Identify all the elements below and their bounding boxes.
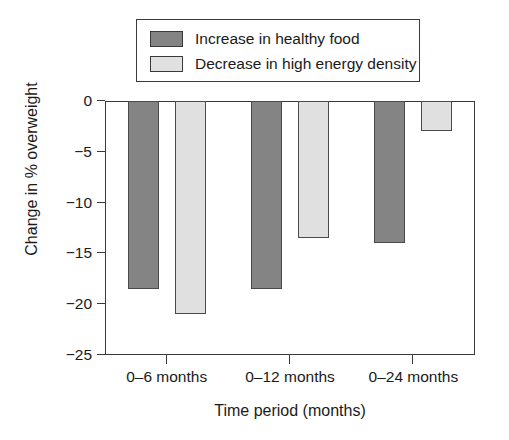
- bar-decrease-high-energy-density-0: [175, 101, 206, 314]
- y-axis-tick-label: 0: [46, 93, 92, 109]
- y-axis-title: Change in % overweight: [23, 54, 41, 284]
- y-axis-tick-label: −20: [46, 296, 92, 312]
- y-axis-tick-mark: [97, 100, 105, 101]
- y-axis-tick-label: −5: [46, 144, 92, 160]
- y-axis-tick-label: −15: [46, 245, 92, 261]
- x-axis-title: Time period (months): [105, 402, 475, 420]
- bar-increase-healthy-food-0: [128, 101, 159, 289]
- bar-decrease-high-energy-density-1: [298, 101, 329, 238]
- y-axis-tick-mark: [97, 202, 105, 203]
- y-axis-tick-label: −10: [46, 195, 92, 211]
- legend-swatch-light-icon: [150, 56, 183, 72]
- legend-swatch-dark-icon: [150, 31, 183, 47]
- y-axis-tick-mark: [97, 303, 105, 304]
- bar-increase-healthy-food-2: [374, 101, 405, 243]
- legend-label-decrease-high-energy-density: Decrease in high energy density: [195, 55, 416, 72]
- bar-increase-healthy-food-1: [251, 101, 282, 289]
- y-axis-tick-mark: [97, 151, 105, 152]
- y-axis-tick-mark: [97, 252, 105, 253]
- y-axis-tick-mark: [97, 354, 105, 355]
- x-axis-tick-mark: [289, 355, 290, 364]
- legend-item-decrease-high-energy-density: Decrease in high energy density: [150, 51, 419, 76]
- x-axis-tick-label: 0–6 months: [97, 368, 237, 385]
- x-axis-tick-label: 0–24 months: [343, 368, 483, 385]
- legend-item-increase-healthy-food: Increase in healthy food: [150, 26, 419, 51]
- plot-area: [105, 101, 475, 355]
- y-axis-tick-label: −25: [46, 347, 92, 363]
- bar-chart-figure: Increase in healthy food Decrease in hig…: [0, 0, 509, 440]
- x-axis-tick-mark: [412, 355, 413, 364]
- legend-label-increase-healthy-food: Increase in healthy food: [195, 30, 360, 47]
- bar-decrease-high-energy-density-2: [421, 101, 452, 131]
- x-axis-tick-label: 0–12 months: [220, 368, 360, 385]
- chart-legend: Increase in healthy food Decrease in hig…: [136, 19, 420, 82]
- x-axis-tick-mark: [166, 355, 167, 364]
